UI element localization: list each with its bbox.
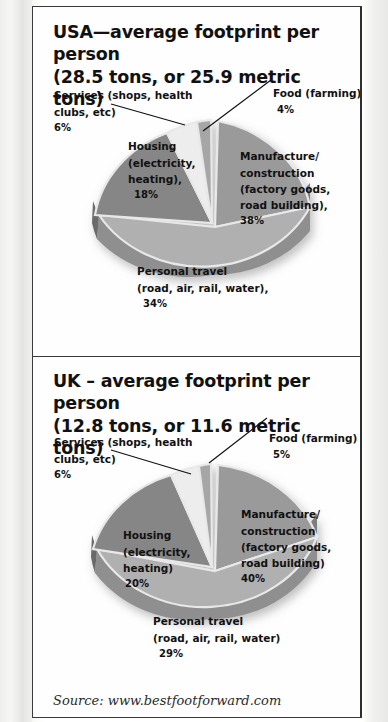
label-housing-usa: Housing (electricity, heating), 18% bbox=[128, 122, 218, 219]
source-caption: Source: www.bestfootforward.com bbox=[53, 693, 281, 708]
page-left-margin bbox=[0, 0, 32, 722]
label-services-uk-text: Services (shops, health clubs, etc) bbox=[54, 436, 192, 464]
chart-title-uk-line1: UK – average footprint per person bbox=[53, 371, 310, 413]
label-travel-uk-pct: 29% bbox=[159, 646, 343, 662]
chart-title-usa-line1: USA—average footprint per person bbox=[53, 22, 319, 64]
label-food-usa-text: Food (farming), bbox=[273, 87, 362, 99]
label-manufacture-usa: Manufacture/ construction (factory goods… bbox=[240, 132, 358, 245]
label-food-uk-pct: 5% bbox=[273, 447, 362, 463]
label-food-usa-pct: 4% bbox=[277, 102, 362, 118]
label-housing-uk-text: Housing (electricity, heating) bbox=[123, 529, 191, 574]
label-housing-uk-pct: 20% bbox=[125, 576, 215, 592]
page-right-margin bbox=[364, 0, 388, 722]
label-food-uk-text: Food (farming) bbox=[269, 432, 357, 444]
label-manufacture-usa-text: Manufacture/ construction (factory goods… bbox=[240, 150, 330, 211]
label-housing-usa-text: Housing (electricity, heating), bbox=[128, 140, 196, 185]
label-manufacture-uk-pct: 40% bbox=[241, 571, 359, 587]
label-travel-usa-pct: 34% bbox=[143, 296, 317, 312]
label-travel-usa-text: Personal travel (road, air, rail, water)… bbox=[137, 265, 268, 293]
label-travel-uk: Personal travel (road, air, rail, water)… bbox=[153, 597, 343, 678]
label-services-uk-pct: 6% bbox=[54, 467, 224, 483]
label-housing-uk: Housing (electricity, heating) 20% bbox=[123, 511, 215, 608]
label-manufacture-uk: Manufacture/ construction (factory goods… bbox=[241, 490, 359, 603]
scanned-page: USA—average footprint per person (28.5 t… bbox=[32, 6, 362, 718]
label-services-usa-text: Services (shops, health clubs, etc) bbox=[54, 89, 192, 117]
label-food-usa: Food (farming), 4% bbox=[273, 69, 362, 133]
label-food-uk: Food (farming) 5% bbox=[269, 414, 362, 478]
label-housing-usa-pct: 18% bbox=[134, 187, 218, 203]
label-travel-uk-text: Personal travel (road, air, rail, water) bbox=[153, 615, 280, 643]
label-manufacture-usa-pct: 38% bbox=[240, 213, 358, 229]
label-services-uk: Services (shops, health clubs, etc) 6% bbox=[54, 418, 224, 499]
section-divider bbox=[33, 356, 360, 357]
label-travel-usa: Personal travel (road, air, rail, water)… bbox=[137, 247, 317, 328]
label-manufacture-uk-text: Manufacture/ construction (factory goods… bbox=[241, 508, 331, 569]
